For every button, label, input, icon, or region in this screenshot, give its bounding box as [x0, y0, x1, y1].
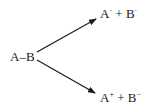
- radical-dot-b: ·: [135, 6, 138, 15]
- anion-charge: −: [136, 90, 141, 99]
- heterolytic-products: A+ + B−: [100, 91, 141, 106]
- homolytic-products: A· + B·: [100, 7, 137, 22]
- plus-sign: +: [115, 6, 122, 21]
- arrow-to-ions: [37, 60, 95, 93]
- radical-a: A: [100, 6, 109, 21]
- plus-sign: +: [117, 90, 124, 105]
- arrow-to-radicals: [37, 19, 96, 52]
- cation-a: A: [100, 90, 109, 105]
- radical-b: B: [126, 6, 135, 21]
- radical-dot-a: ·: [109, 6, 112, 15]
- reactant-text: A–B: [10, 49, 35, 64]
- reactant-label: A–B: [10, 50, 35, 63]
- cation-charge: +: [109, 90, 114, 99]
